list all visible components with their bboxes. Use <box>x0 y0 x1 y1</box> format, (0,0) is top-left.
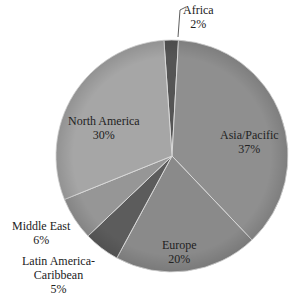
label-africa-name: Africa <box>183 3 214 17</box>
label-latam-name2: Caribbean <box>22 268 95 282</box>
label-latin-america: Latin America- Caribbean 5% <box>22 254 95 296</box>
label-africa-pct: 2% <box>183 17 214 31</box>
label-europe-pct: 20% <box>162 252 197 266</box>
label-namerica-name: North America <box>68 114 140 128</box>
label-namerica-pct: 30% <box>68 128 140 142</box>
label-latam-pct: 5% <box>22 282 95 296</box>
label-europe: Europe 20% <box>162 238 197 266</box>
label-asia-pct: 37% <box>220 142 279 156</box>
label-mideast-name: Middle East <box>12 219 70 233</box>
label-asia-pacific: Asia/Pacific 37% <box>220 128 279 156</box>
label-mideast-pct: 6% <box>12 233 70 247</box>
label-latam-name1: Latin America- <box>22 254 95 268</box>
label-north-america: North America 30% <box>68 114 140 142</box>
label-africa: Africa 2% <box>183 3 214 31</box>
label-europe-name: Europe <box>162 238 197 252</box>
label-asia-name: Asia/Pacific <box>220 128 279 142</box>
label-middle-east: Middle East 6% <box>12 219 70 247</box>
